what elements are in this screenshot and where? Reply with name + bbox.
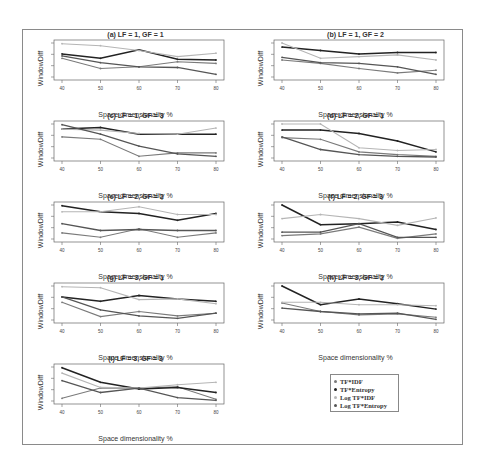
svg-text:40: 40 <box>279 248 285 253</box>
series-line-logtfidf <box>282 124 436 151</box>
svg-text:70: 70 <box>395 167 401 172</box>
svg-text:70: 70 <box>175 248 181 253</box>
svg-text:80: 80 <box>433 248 439 253</box>
line-plot: 4050607080 <box>274 202 454 264</box>
chart-panel-7: (h) LF = 3, GF = 2WindowDiffSpace dimens… <box>248 274 463 366</box>
svg-text:50: 50 <box>318 167 324 172</box>
svg-text:40: 40 <box>279 329 285 334</box>
svg-text:60: 60 <box>136 248 142 253</box>
svg-text:50: 50 <box>318 329 324 334</box>
series-line-tfidf <box>282 60 436 73</box>
svg-text:60: 60 <box>356 329 362 334</box>
chart-panel-5: (f) LF = 2, GF = 3WindowDiffSpace dimens… <box>248 193 463 285</box>
svg-text:60: 60 <box>356 86 362 91</box>
y-axis-label: WindowDiff <box>37 292 44 332</box>
svg-text:70: 70 <box>175 329 181 334</box>
svg-text:50: 50 <box>98 86 104 91</box>
legend-marker-icon <box>334 396 337 399</box>
svg-text:50: 50 <box>98 248 104 253</box>
y-axis-label: WindowDiff <box>257 292 264 332</box>
svg-text:50: 50 <box>318 248 324 253</box>
panel-title: (e) LF = 2, GF = 2 <box>28 193 243 200</box>
series-line-logtfidf <box>62 373 216 388</box>
svg-text:80: 80 <box>433 86 439 91</box>
svg-text:70: 70 <box>395 86 401 91</box>
y-axis-label: WindowDiff <box>37 49 44 89</box>
series-line-tfentropy <box>282 205 436 229</box>
svg-text:80: 80 <box>433 329 439 334</box>
svg-text:40: 40 <box>59 248 65 253</box>
svg-text:60: 60 <box>136 86 142 91</box>
svg-text:40: 40 <box>59 86 65 91</box>
svg-text:80: 80 <box>213 248 219 253</box>
svg-text:80: 80 <box>213 86 219 91</box>
x-axis-label: Space dimensionality % <box>248 354 463 361</box>
legend-item-logtfentropy: Log TF*Entropy <box>334 401 395 409</box>
svg-text:80: 80 <box>213 167 219 172</box>
chart-panel-8: (i) LF = 3, GF = 3WindowDiffSpace dimens… <box>28 355 243 447</box>
line-plot: 4050607080 <box>274 40 454 102</box>
svg-text:70: 70 <box>175 86 181 91</box>
panel-title: (b) LF = 1, GF = 2 <box>248 31 463 38</box>
line-plot: 4050607080 <box>54 364 234 426</box>
svg-text:70: 70 <box>175 410 181 415</box>
chart-panel-1: (b) LF = 1, GF = 2WindowDiffSpace dimens… <box>248 31 463 123</box>
chart-panel-6: (g) LF = 3, GF = 1WindowDiffSpace dimens… <box>28 274 243 366</box>
legend-item-tfidf: TF*IDF <box>334 377 395 385</box>
y-axis-label: WindowDiff <box>257 130 264 170</box>
svg-text:40: 40 <box>59 410 65 415</box>
chart-panel-3: (d) LF = 2, GF = 1WindowDiffSpace dimens… <box>248 112 463 204</box>
y-axis-label: WindowDiff <box>257 49 264 89</box>
legend-marker-icon <box>334 380 337 383</box>
svg-text:70: 70 <box>175 167 181 172</box>
y-axis-label: WindowDiff <box>37 211 44 251</box>
panel-title: (c) LF = 1, GF = 3 <box>28 112 243 119</box>
svg-text:80: 80 <box>213 410 219 415</box>
svg-text:80: 80 <box>433 167 439 172</box>
line-plot: 4050607080 <box>274 121 454 183</box>
svg-text:60: 60 <box>356 167 362 172</box>
svg-text:60: 60 <box>356 248 362 253</box>
legend-marker-icon <box>334 404 337 407</box>
y-axis-label: WindowDiff <box>37 373 44 413</box>
legend: TF*IDF TF*Entropy Log TF*IDF Log TF*Entr… <box>330 374 399 412</box>
svg-text:70: 70 <box>395 248 401 253</box>
legend-item-logtfidf: Log TF*IDF <box>334 393 395 401</box>
panel-title: (d) LF = 2, GF = 1 <box>248 112 463 119</box>
panel-title: (g) LF = 3, GF = 1 <box>28 274 243 281</box>
svg-text:40: 40 <box>59 329 65 334</box>
svg-text:50: 50 <box>98 329 104 334</box>
chart-panel-4: (e) LF = 2, GF = 2WindowDiffSpace dimens… <box>28 193 243 285</box>
chart-panel-2: (c) LF = 1, GF = 3WindowDiffSpace dimens… <box>28 112 243 204</box>
line-plot: 4050607080 <box>54 283 234 345</box>
svg-text:60: 60 <box>136 167 142 172</box>
line-plot: 4050607080 <box>54 121 234 183</box>
svg-text:50: 50 <box>98 167 104 172</box>
y-axis-label: WindowDiff <box>257 211 264 251</box>
legend-marker-icon <box>334 388 337 391</box>
svg-text:80: 80 <box>213 329 219 334</box>
panel-title: (f) LF = 2, GF = 3 <box>248 193 463 200</box>
svg-text:60: 60 <box>136 329 142 334</box>
x-axis-label: Space dimensionality % <box>28 435 243 442</box>
legend-item-tfentropy: TF*Entropy <box>334 385 395 393</box>
series-line-logtfentropy <box>62 56 216 74</box>
line-plot: 4050607080 <box>54 40 234 102</box>
chart-panel-0: (a) LF = 1, GF = 1WindowDiffSpace dimens… <box>28 31 243 123</box>
svg-text:50: 50 <box>98 410 104 415</box>
line-plot: 4050607080 <box>274 283 454 345</box>
svg-text:40: 40 <box>279 167 285 172</box>
panel-title: (h) LF = 3, GF = 2 <box>248 274 463 281</box>
svg-text:40: 40 <box>59 167 65 172</box>
line-plot: 4050607080 <box>54 202 234 264</box>
svg-text:50: 50 <box>318 86 324 91</box>
series-line-tfentropy <box>282 47 436 54</box>
svg-text:40: 40 <box>279 86 285 91</box>
panel-title: (a) LF = 1, GF = 1 <box>28 31 243 38</box>
panel-title: (i) LF = 3, GF = 3 <box>28 355 243 362</box>
svg-text:60: 60 <box>136 410 142 415</box>
svg-text:70: 70 <box>395 329 401 334</box>
y-axis-label: WindowDiff <box>37 130 44 170</box>
